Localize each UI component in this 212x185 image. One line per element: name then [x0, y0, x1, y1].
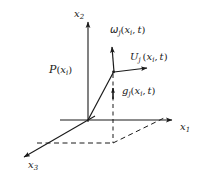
axis-label-x1-sub: 1 — [186, 126, 190, 134]
diagram-canvas — [0, 0, 212, 185]
point-P-label: P(xi) — [49, 64, 72, 75]
position-ray-group — [88, 73, 113, 120]
U-vector-label: Uj (xi, t) — [130, 52, 168, 62]
omega-symbol-sub: j — [118, 29, 120, 37]
point-P-arg-sub: i — [66, 69, 68, 77]
U-vector-arrow — [114, 68, 147, 72]
axis-label-x2-sub: 2 — [80, 13, 84, 21]
axis-label-x3-base: x — [28, 159, 34, 170]
x-3-axis-line — [24, 116, 95, 157]
base-plane-diagonal-dashed — [113, 118, 164, 143]
axis-label-x3-sub: 3 — [34, 164, 38, 172]
axis-label-x1-base: x — [180, 121, 186, 132]
figure-root: x2 x1 x3 P(xi) ωj(xi, t) Uj (xi, t) gj(x… — [0, 0, 212, 185]
omega-vector-label: ωj(xi, t) — [110, 25, 145, 35]
g-symbol-sub: j — [128, 90, 130, 98]
origin-to-point-ray — [88, 73, 113, 120]
axis-label-x2: x2 — [74, 9, 84, 19]
g-vector-label: gj(xi, t) — [122, 86, 156, 96]
axis-label-x3: x3 — [28, 160, 38, 170]
axis-label-x2-base: x — [74, 8, 80, 19]
axis-label-x1: x1 — [180, 122, 190, 132]
U-symbol-sub: j — [138, 56, 140, 64]
point-P-marker — [112, 71, 115, 74]
omega-vector-arrow — [112, 47, 114, 72]
